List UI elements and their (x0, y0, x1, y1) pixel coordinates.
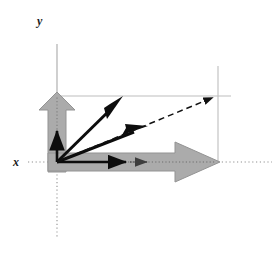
diagram-svg: x y (0, 0, 277, 257)
y-axis-label: y (35, 14, 43, 28)
x-axis-label: x (12, 155, 19, 169)
vector-diagram-canvas: x y (0, 0, 277, 257)
